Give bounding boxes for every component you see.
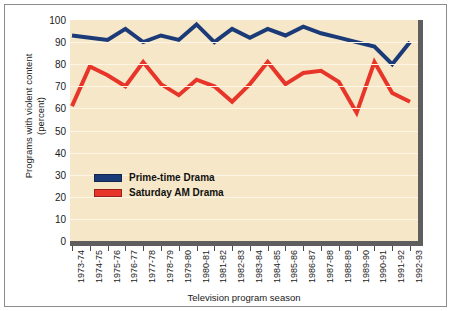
x-tick-label: 1990-91 (378, 250, 388, 283)
y-tick-label: 20 (40, 191, 66, 202)
y-axis-tick-labels: 0102030405060708090100 (38, 20, 66, 241)
x-tick-label: 1983-84 (254, 250, 264, 283)
x-tick-label: 1992-93 (414, 250, 424, 283)
x-axis-tick-labels: 1973-741974-751975-761976-771977-781978-… (70, 250, 418, 298)
legend-swatch (94, 189, 122, 197)
plot-area (70, 20, 418, 241)
y-tick-label: 40 (40, 147, 66, 158)
y-tick-label: 90 (40, 37, 66, 48)
legend-label: Saturday AM Drama (129, 187, 224, 198)
plot-right-border (418, 20, 423, 241)
x-tick-label: 1979-80 (183, 250, 193, 283)
x-tick-label: 1989-90 (361, 250, 371, 283)
x-tick-label: 1976-77 (129, 250, 139, 283)
x-tick-label: 1987-88 (325, 250, 335, 283)
x-tick-label: 1977-78 (147, 250, 157, 283)
y-tick-label: 100 (40, 15, 66, 26)
gridline (70, 86, 418, 87)
x-tick-label: 1988-89 (343, 250, 353, 283)
y-tick-label: 10 (40, 213, 66, 224)
gridline (70, 64, 418, 65)
legend-item: Saturday AM Drama (94, 185, 224, 200)
gridline (70, 42, 418, 43)
y-tick-label: 50 (40, 125, 66, 136)
gridline (70, 131, 418, 132)
x-tick-label: 1982-83 (236, 250, 246, 283)
x-tick-label: 1984-85 (272, 250, 282, 283)
legend-label: Prime-time Drama (129, 172, 215, 183)
chart-legend: Prime-time DramaSaturday AM Drama (94, 170, 224, 200)
x-tick-label: 1973-74 (76, 250, 86, 283)
chart-figure: Programs with violent content (percent) … (0, 0, 451, 311)
x-tick-label: 1978-79 (165, 250, 175, 283)
y-tick-label: 80 (40, 59, 66, 70)
legend-swatch (94, 174, 122, 182)
gridline (70, 153, 418, 154)
gridline (70, 219, 418, 220)
gridline (70, 108, 418, 109)
y-tick-label: 30 (40, 169, 66, 180)
gridlines (70, 20, 418, 241)
x-tick-label: 1985-86 (289, 250, 299, 283)
y-tick-label: 60 (40, 103, 66, 114)
y-tick-label: 70 (40, 81, 66, 92)
x-tick-label: 1991-92 (396, 250, 406, 283)
x-tick-label: 1980-81 (201, 250, 211, 283)
x-tick-label: 1975-76 (112, 250, 122, 283)
y-tick-label: 0 (40, 236, 66, 247)
x-axis-title: Television program season (70, 292, 418, 303)
x-tick-label: 1974-75 (94, 250, 104, 283)
legend-item: Prime-time Drama (94, 170, 224, 185)
x-tick-label: 1986-87 (307, 250, 317, 283)
x-tick-label: 1981-82 (218, 250, 228, 283)
